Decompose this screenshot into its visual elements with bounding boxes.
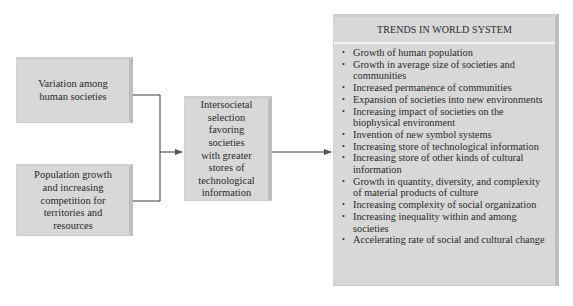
variation-line: Variation among [38,78,108,91]
selection-line: technological [198,175,255,188]
connector-variation [133,95,160,201]
trend-item: •Growth in quantity, diversity, and comp… [342,176,551,199]
bullet-icon: • [342,129,345,141]
population-line: and increasing [34,182,112,195]
selection-line: favoring [198,124,255,137]
trend-item: •Increasing complexity of social organiz… [342,199,551,211]
selection-line: Intersocietal [198,99,255,112]
bullet-icon: • [342,176,345,188]
bullet-icon: • [342,141,345,153]
trend-item: •Growth of human population [342,47,551,59]
input-box-population: Population growth and increasing competi… [16,164,133,236]
process-box-selection: Intersocietal selection favoring societi… [184,96,272,201]
variation-line: human societies [38,91,108,104]
selection-line: with greater [198,150,255,163]
output-box-trends: TRENDS IN WORLD SYSTEM •Growth of human … [333,14,559,286]
bullet-icon: • [342,152,345,164]
trend-item: •Invention of new symbol systems [342,129,551,141]
bullet-icon: • [342,211,345,223]
bullet-icon: • [342,234,345,246]
bullet-icon: • [342,106,345,118]
population-line: competition for [34,195,112,208]
selection-line: societies [198,137,255,150]
trend-item: •Increasing store of other kinds of cult… [342,152,551,175]
bullet-icon: • [342,82,345,94]
trend-item: •Growth in average size of societies and… [342,59,551,82]
bullet-icon: • [342,47,345,59]
bullet-icon: • [342,59,345,71]
input-box-variation: Variation among human societies [16,57,133,123]
population-line: Population growth [34,169,112,182]
population-line: territories and [34,207,112,220]
selection-line: selection [198,112,255,125]
trend-item: •Increased permanence of communities [342,82,551,94]
population-line: resources [34,220,112,233]
trend-item: •Accelerating rate of social and cultura… [342,234,551,246]
trends-list: •Growth of human population •Growth in a… [334,44,555,246]
trends-title: TRENDS IN WORLD SYSTEM [334,17,555,44]
trend-item: •Increasing inequality within and among … [342,211,551,234]
selection-line: stores of [198,162,255,175]
selection-line: information [198,187,255,200]
trend-item: •Expansion of societies into new environ… [342,94,551,106]
trend-item: •Increasing store of technological infor… [342,141,551,153]
bullet-icon: • [342,199,345,211]
bullet-icon: • [342,94,345,106]
trend-item: •Increasing impact of societies on the b… [342,106,551,129]
